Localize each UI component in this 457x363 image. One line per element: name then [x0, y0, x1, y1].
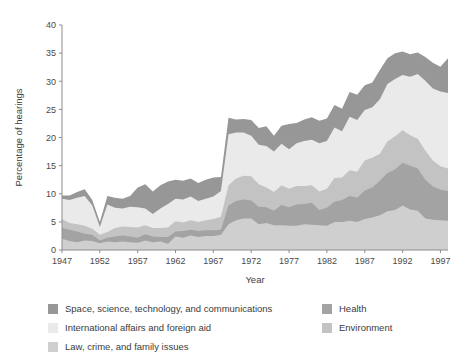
x-tick-label: 1967 — [203, 256, 223, 266]
y-tick-label: 40 — [46, 20, 56, 30]
legend-swatch-icon — [322, 323, 332, 333]
x-tick-label: 1962 — [166, 256, 186, 266]
y-tick-label: 0 — [51, 245, 56, 255]
legend-swatch-icon — [322, 304, 332, 314]
area-bands — [62, 51, 448, 250]
chart-legend: Space, science, technology, and communic… — [0, 300, 457, 363]
legend-label: Health — [339, 303, 366, 314]
x-axis-title: Year — [245, 274, 264, 285]
legend-item[interactable]: Space, science, technology, and communic… — [48, 300, 272, 317]
x-tick-label: 1982 — [317, 256, 337, 266]
legend-swatch-icon — [48, 323, 58, 333]
legend-label: Environment — [339, 322, 392, 333]
x-tick-label: 1977 — [279, 256, 299, 266]
legend-item[interactable]: International affairs and foreign aid — [48, 319, 272, 336]
y-tick-label: 15 — [46, 161, 56, 171]
x-tick-label: 1987 — [355, 256, 375, 266]
y-tick-label: 5 — [51, 217, 56, 227]
x-tick-label: 1992 — [393, 256, 413, 266]
legend-item[interactable]: Law, crime, and family issues — [48, 338, 272, 355]
legend-swatch-icon — [48, 304, 58, 314]
legend-item[interactable]: Health — [322, 300, 392, 317]
x-tick-label: 1997 — [430, 256, 450, 266]
legend-label: Law, crime, and family issues — [65, 341, 189, 352]
y-tick-label: 20 — [46, 133, 56, 143]
y-axis-title: Percentage of hearings — [13, 88, 24, 186]
x-tick-label: 1972 — [241, 256, 261, 266]
x-tick-label: 1947 — [52, 256, 72, 266]
y-tick-label: 10 — [46, 189, 56, 199]
legend-column-left: Space, science, technology, and communic… — [48, 300, 272, 357]
stacked-area-chart: 0510152025303540194719521957196219671972… — [0, 0, 457, 363]
y-tick-label: 25 — [46, 105, 56, 115]
x-tick-label: 1957 — [128, 256, 148, 266]
legend-label: International affairs and foreign aid — [65, 322, 211, 333]
x-tick-label: 1952 — [90, 256, 110, 266]
y-tick-label: 30 — [46, 77, 56, 87]
legend-column-right: HealthEnvironment — [322, 300, 392, 338]
legend-swatch-icon — [48, 342, 58, 352]
legend-item[interactable]: Environment — [322, 319, 392, 336]
y-tick-label: 35 — [46, 48, 56, 58]
legend-label: Space, science, technology, and communic… — [65, 303, 272, 314]
